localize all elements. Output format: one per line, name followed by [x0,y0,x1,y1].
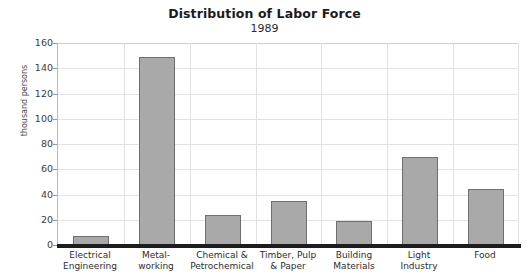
y-tick-mark [53,94,57,95]
gridline-horizontal [58,43,519,44]
gridline-horizontal [58,94,519,95]
gridline-vertical [453,43,454,245]
plot-area [57,43,518,245]
y-tick-mark [53,245,57,246]
y-tick-mark [53,68,57,69]
bar-6 [402,157,438,245]
gridline-vertical [190,43,191,245]
x-axis-baseline [57,244,521,248]
gridline-horizontal [58,68,519,69]
gridline-vertical [321,43,322,245]
y-tick-label: 40 [27,190,53,200]
y-tick-mark [53,220,57,221]
page-title: Distribution of Labor Force [0,6,529,21]
gridline-horizontal [58,169,519,170]
x-axis-tick-labels: ElectricalEngineeringMetal-workingChemic… [57,250,518,275]
gridline-horizontal [58,195,519,196]
gridline-vertical [387,43,388,245]
y-tick-label: 80 [27,139,53,149]
bar-3 [205,215,241,245]
gridline-vertical [256,43,257,245]
x-tick-label-line: Industry [378,261,460,272]
y-tick-label: 60 [27,164,53,174]
chart-title-block: Distribution of Labor Force 1989 [0,6,529,36]
y-tick-mark [53,119,57,120]
gridline-horizontal [58,119,519,120]
bar-2 [139,57,175,245]
y-tick-mark [53,169,57,170]
bar-chart: Distribution of Labor Force 1989 thousan… [0,0,529,275]
y-tick-label: 140 [27,63,53,73]
x-tick-label-line: Food [444,250,526,261]
bar-4 [271,201,307,245]
y-tick-mark [53,144,57,145]
y-tick-label: 160 [27,38,53,48]
bar-5 [336,221,372,245]
y-axis-tick-labels: 020406080100120140160 [22,43,53,245]
x-tick-label-7: Food [444,250,526,261]
y-tick-label: 0 [27,240,53,250]
y-tick-label: 120 [27,89,53,99]
gridline-vertical [518,43,519,245]
y-tick-mark [53,195,57,196]
y-tick-label: 20 [27,215,53,225]
chart-subtitle: 1989 [0,22,529,36]
y-tick-label: 100 [27,114,53,124]
bar-7 [468,189,504,245]
y-tick-mark [53,43,57,44]
gridline-vertical [124,43,125,245]
gridline-horizontal [58,144,519,145]
